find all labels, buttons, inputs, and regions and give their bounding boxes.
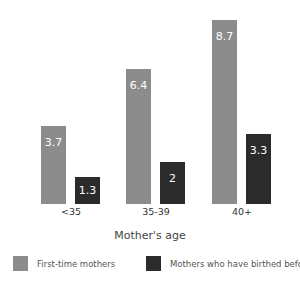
bar-first-time-35-39: 6.4 <box>126 69 151 204</box>
legend-swatch-dark <box>146 256 161 271</box>
x-tick-label: 40+ <box>212 206 272 217</box>
bar-value-label: 3.3 <box>246 144 271 157</box>
legend-label: Mothers who have birthed before <box>170 259 300 269</box>
bar-birthed-before-40plus: 3.3 <box>246 134 271 204</box>
legend-item-first-time: First-time mothers <box>13 256 115 271</box>
legend-swatch-gray <box>13 256 28 271</box>
x-tick-label: <35 <box>41 206 101 217</box>
x-tick-label: 35-39 <box>126 206 186 217</box>
legend-label: First-time mothers <box>37 259 115 269</box>
bar-chart: 3.7 1.3 6.4 2 8.7 3.3 <35 35-39 40+ Moth… <box>0 0 300 285</box>
legend-item-birthed-before: Mothers who have birthed before <box>146 256 300 271</box>
bar-first-time-lt35: 3.7 <box>41 126 66 204</box>
bar-birthed-before-lt35: 1.3 <box>75 177 100 204</box>
bar-value-label: 6.4 <box>126 79 151 92</box>
x-axis-title: Mother's age <box>0 229 300 242</box>
bar-first-time-40plus: 8.7 <box>212 20 237 204</box>
bar-value-label: 1.3 <box>75 184 100 197</box>
bar-value-label: 2 <box>160 172 185 185</box>
bar-birthed-before-35-39: 2 <box>160 162 185 204</box>
bar-value-label: 8.7 <box>212 30 237 43</box>
bar-value-label: 3.7 <box>41 136 66 149</box>
